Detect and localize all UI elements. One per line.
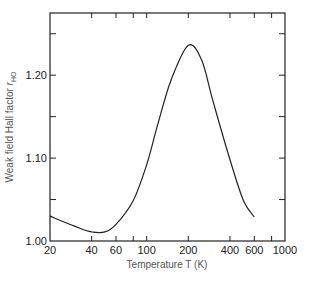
x-axis-title: Temperature T (K) [127, 259, 208, 270]
x-tick-label: 1000 [273, 244, 297, 256]
plot-frame [50, 13, 285, 241]
x-tick-label: 600 [245, 244, 263, 256]
y-axis-title: Weak field Hall factor rHO [4, 71, 17, 182]
hall-factor-curve [50, 45, 254, 233]
x-tick-label: 60 [110, 244, 122, 256]
y-axis-title-main: Weak field Hall factor [4, 85, 15, 182]
x-tick-label: 40 [86, 244, 98, 256]
x-axis-ticks [92, 13, 272, 241]
x-tick-label: 100 [138, 244, 156, 256]
x-axis-tick-labels: 2040601002004006001000 [44, 244, 297, 256]
y-tick-label: 1.10 [26, 152, 47, 164]
y-axis-title-subscript: HO [10, 71, 17, 82]
x-tick-label: 200 [179, 244, 197, 256]
y-tick-label: 1.00 [26, 235, 47, 247]
y-axis-ticks [50, 34, 285, 200]
x-tick-label: 400 [221, 244, 239, 256]
figure-caption-fragment [0, 276, 309, 282]
y-tick-label: 1.20 [26, 69, 47, 81]
hall-factor-chart: 2040601002004006001000 1.001.101.20 Temp… [0, 0, 309, 282]
y-axis-tick-labels: 1.001.101.20 [26, 69, 47, 247]
